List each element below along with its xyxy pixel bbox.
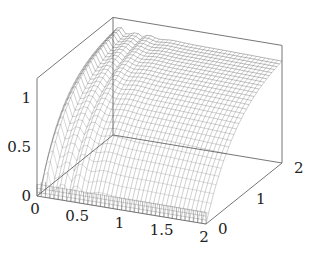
mesh-line-y	[95, 46, 264, 82]
mesh-line-x	[92, 40, 168, 205]
mesh-line-x	[84, 39, 160, 204]
mesh-line-x	[67, 37, 143, 201]
box-edge	[113, 135, 282, 163]
mesh-line-y	[55, 117, 224, 161]
x-tick-label: 1.5	[150, 221, 174, 239]
y-tick-label: 2	[294, 159, 304, 177]
mesh-line-y	[93, 49, 262, 86]
z-tick-label: 1	[21, 89, 31, 107]
mesh-line-x	[202, 60, 278, 223]
z-tick-label: 0.5	[7, 138, 31, 156]
y-tick-label: 1	[256, 190, 266, 208]
mesh-line-x	[206, 61, 282, 224]
mesh-line-y	[75, 73, 244, 114]
mesh-line-y	[52, 124, 221, 168]
x-tick-label: 0	[30, 200, 40, 218]
x-tick-label: 0.5	[65, 207, 89, 225]
surface-plot: 00.5100.511.52012	[0, 0, 309, 255]
y-tick-label: 0	[218, 220, 228, 238]
x-tick-label: 2	[199, 228, 209, 246]
surface-mesh	[37, 28, 282, 224]
x-tick-label: 1	[115, 214, 125, 232]
mesh-line-y	[65, 92, 234, 135]
axis-tick-labels: 00.5100.511.52012	[7, 89, 303, 246]
box-edge	[206, 163, 282, 224]
